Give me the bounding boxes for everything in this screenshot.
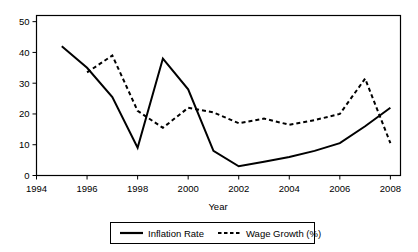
x-tick-label-1994: 1994	[26, 183, 47, 194]
line-chart: 01020304050 1994199619982000200220042006…	[0, 0, 418, 252]
y-tick-label-50: 50	[19, 16, 30, 27]
chart-figure: 01020304050 1994199619982000200220042006…	[0, 0, 418, 252]
x-tick-label-2008: 2008	[380, 183, 401, 194]
y-tick-label-0: 0	[24, 170, 29, 181]
x-tick-label-1996: 1996	[76, 183, 97, 194]
y-tick-label-10: 10	[19, 139, 30, 150]
plot-frame	[37, 16, 401, 176]
x-tick-label-1998: 1998	[127, 183, 148, 194]
y-tick-label-40: 40	[19, 47, 30, 58]
series-line-wage-growth	[87, 56, 390, 144]
legend-label-inflation-rate: Inflation Rate	[148, 228, 204, 239]
y-tick-label-20: 20	[19, 108, 30, 119]
x-tick-label-2004: 2004	[279, 183, 300, 194]
x-tick-label-2000: 2000	[178, 183, 199, 194]
x-axis-ticks	[37, 176, 391, 180]
y-axis-tick-labels: 01020304050	[19, 16, 30, 181]
x-tick-label-2006: 2006	[329, 183, 350, 194]
x-tick-label-2002: 2002	[228, 183, 249, 194]
chart-legend: Inflation Rate Wage Growth (%)	[111, 223, 322, 244]
x-axis-title: Year	[208, 201, 227, 212]
legend-label-wage-growth: Wage Growth (%)	[246, 228, 321, 239]
x-axis-tick-labels: 19941996199820002002200420062008	[26, 183, 401, 194]
y-tick-label-30: 30	[19, 78, 30, 89]
series-line-inflation-rate	[62, 46, 391, 166]
